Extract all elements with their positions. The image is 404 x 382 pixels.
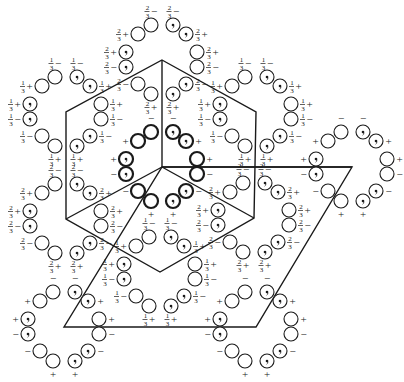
symmetry-diagram: +−−++−−++−+−+−−++−−++−+−+−−++−−++−+−+−−+… [0, 0, 404, 382]
height-label: 13− [102, 272, 115, 288]
fraction-denominator: 3 [146, 12, 150, 20]
plain-position: 23+ [116, 27, 145, 43]
open-circle-icon [334, 125, 348, 139]
comma-position: + [273, 294, 296, 308]
height-label: 13+ [110, 97, 123, 113]
plain-position: + [122, 134, 145, 148]
height-label: + [72, 368, 78, 380]
comma-position: + [260, 354, 274, 380]
plus-sign: + [26, 80, 32, 92]
plus-sign: + [216, 295, 222, 307]
fraction-denominator: 3 [9, 120, 13, 128]
comma-position: 13+ [198, 97, 227, 113]
minus-sign: − [396, 168, 402, 180]
fraction-denominator: 3 [21, 194, 25, 202]
plain-position: + [216, 294, 239, 308]
minus-sign: − [55, 164, 61, 176]
comma-position: − [81, 344, 104, 358]
height-label: 13+ [102, 257, 115, 273]
height-label: − [195, 185, 201, 197]
comma-position: 13− [83, 129, 112, 145]
fraction-denominator: 3 [105, 68, 109, 76]
comma-position: 23− [271, 235, 300, 251]
comma-position: + [12, 312, 35, 326]
plus-sign: + [116, 98, 122, 110]
fraction-denominator: 3 [238, 266, 242, 274]
open-circle-icon [129, 239, 143, 253]
height-label: + [108, 313, 114, 325]
height-label: 23+ [298, 203, 311, 219]
fraction-denominator: 3 [50, 171, 54, 179]
plain-position: 23− [190, 60, 219, 76]
open-circle-icon [94, 97, 108, 111]
fraction-denominator: 3 [288, 193, 292, 201]
minus-sign: − [216, 130, 222, 142]
height-label: + [122, 135, 128, 147]
plus-sign: + [72, 368, 78, 380]
plus-sign: + [214, 186, 220, 198]
open-circle-icon [142, 230, 156, 244]
comma-position: 23+ [166, 87, 180, 116]
minus-sign: − [149, 217, 155, 229]
fraction-denominator: 3 [115, 297, 119, 305]
plus-sign: + [110, 153, 116, 165]
minus-sign: − [264, 272, 270, 284]
height-label: 13− [110, 112, 123, 128]
minus-sign: − [97, 345, 103, 357]
plus-sign: + [120, 240, 126, 252]
minus-sign: − [338, 112, 344, 124]
minus-sign: − [108, 328, 114, 340]
comma-position: 23− [83, 236, 112, 252]
height-label: 23+ [116, 27, 129, 43]
minus-sign: − [120, 290, 126, 302]
plus-sign: + [206, 153, 212, 165]
minus-sign: − [199, 290, 205, 302]
height-label: + [195, 135, 201, 147]
plus-sign: + [149, 313, 155, 325]
height-label: 23+ [287, 185, 300, 201]
plus-sign: + [105, 187, 111, 199]
height-label: − [300, 168, 306, 180]
open-circle-icon [225, 344, 239, 358]
height-label: 23− [104, 60, 117, 76]
height-label: 13− [198, 112, 211, 128]
height-label: 13− [99, 129, 112, 145]
height-label: − [338, 112, 344, 124]
plain-position: − [216, 344, 239, 358]
open-circle-icon [142, 299, 156, 313]
minus-sign: − [245, 57, 251, 69]
open-circle-icon [131, 184, 145, 198]
open-circle-icon [144, 194, 158, 208]
plus-sign: + [24, 295, 30, 307]
plus-sign: + [122, 135, 128, 147]
comma-position: 13− [273, 129, 302, 145]
comma-position: + [356, 194, 370, 220]
comma-position: 13− [198, 112, 227, 128]
open-circle-icon [46, 354, 60, 368]
height-label: + [312, 135, 318, 147]
comma-position: − [204, 327, 227, 341]
fraction-denominator: 3 [21, 87, 25, 95]
minus-sign: − [14, 220, 20, 232]
open-circle-icon [380, 152, 394, 166]
fraction-denominator: 3 [288, 243, 292, 251]
open-circle-icon [35, 236, 49, 250]
minus-sign: − [300, 328, 306, 340]
minus-sign: − [204, 328, 210, 340]
height-label: 23− [206, 60, 219, 76]
plus-sign: + [77, 260, 83, 272]
plain-position: 13− [94, 112, 123, 128]
fraction-denominator: 3 [301, 120, 305, 128]
fraction-denominator: 3 [50, 64, 54, 72]
plain-position: 13− [238, 56, 252, 84]
minus-sign: − [26, 237, 32, 249]
comma-position: 13+ [177, 239, 206, 255]
fraction-denominator: 3 [211, 137, 215, 145]
fraction-denominator: 3 [21, 137, 25, 145]
height-label: 13− [193, 289, 206, 305]
minus-sign: − [77, 57, 83, 69]
plus-sign: + [295, 80, 301, 92]
height-label: 23− [110, 219, 123, 235]
minus-sign: − [243, 163, 249, 175]
open-circle-icon [33, 294, 47, 308]
